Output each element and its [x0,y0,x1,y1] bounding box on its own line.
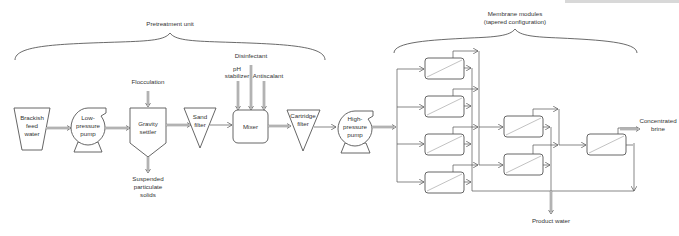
flow-lp-pump-to-settler [105,126,130,131]
membrane-label-line1: Membrane modules [488,10,543,17]
concentrated-brine-label: Concentrated brine [639,117,677,132]
flow-settler-to-sand-filter [166,123,191,128]
ph-label-line1: pH [233,65,241,72]
ph-label-line2: stabilizer [225,72,249,79]
brackish-feed-tank: Brackish feed water [14,108,50,150]
suspended-solids-label: Suspended particulate solids [132,175,164,198]
svg-text:pump: pump [347,131,363,138]
svg-text:feed: feed [26,122,39,129]
svg-text:Gravity: Gravity [138,120,159,127]
membrane-brace [394,29,637,53]
process-flow-diagram: Pretreatment unit Membrane modules (tape… [0,0,679,236]
svg-text:brine: brine [651,125,665,132]
svg-text:filter: filter [194,121,206,128]
svg-text:Cartridge: Cartridge [290,112,316,119]
svg-text:Mixer: Mixer [243,123,258,130]
pretreatment-label: Pretreatment unit [146,20,194,27]
sand-filter: Sand filter [184,108,216,148]
flow-antiscalant [262,81,267,110]
low-pressure-pump: Low- pressure pump [71,108,106,152]
high-pressure-pump: High- pressure pump [338,111,373,153]
stage2-module-2 [504,154,543,175]
svg-text:Suspended: Suspended [132,175,164,182]
svg-text:particulate: particulate [134,183,163,190]
stage3-module [587,134,626,155]
svg-text:settler: settler [140,128,157,135]
pretreatment-brace [15,33,325,60]
svg-text:pressure: pressure [343,123,368,130]
stage1-module-3 [425,134,464,155]
product-water-label: Product water [532,217,570,224]
flow-mixer-to-cartridge-filter [268,124,291,129]
cartridge-filter: Cartridge filter [287,110,320,151]
flow-ph-stabilizer [236,81,241,110]
svg-text:Sand: Sand [193,113,208,120]
flocculation-label: Flocculation [131,78,165,85]
flow-solids-out [146,157,151,173]
stage2-module-1 [504,116,543,137]
svg-text:Brackish: Brackish [20,114,44,121]
mixer: Mixer [233,110,268,143]
svg-text:pump: pump [80,130,96,137]
svg-text:High-: High- [348,115,363,122]
flow-flocculation [146,91,151,107]
membrane-label-line2: (tapered configuration) [484,18,546,25]
stage1-feed-manifold [397,69,424,182]
svg-text:Concentrated: Concentrated [639,117,677,124]
svg-text:Low-: Low- [81,114,94,121]
svg-text:water: water [23,130,39,137]
flow-concentrated-brine [618,127,640,135]
disinfectant-label: Disinfectant [235,52,268,59]
svg-text:pressure: pressure [76,122,101,129]
svg-text:solids: solids [140,191,156,198]
flow-product-water [549,191,554,214]
flow-feed-to-lp-pump [46,126,71,131]
stage1-module-2 [425,96,464,117]
stage2-permeate-lines [543,127,551,191]
stage1-permeate-lines [464,68,634,191]
stage1-module-4 [425,172,464,193]
stage1-module-1 [425,58,464,79]
antiscalant-label: Antiscalant [253,72,284,79]
stage2-feed-lines [479,127,503,165]
stage3-permeate-line [626,143,634,191]
gravity-settler: Gravity settler [130,108,166,157]
flow-hp-pump-to-manifold [372,125,396,130]
svg-text:filter: filter [297,120,309,127]
